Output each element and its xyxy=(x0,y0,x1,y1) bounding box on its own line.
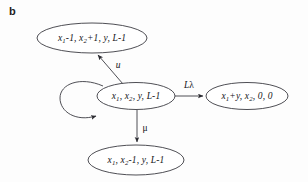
edge-center-to-top xyxy=(98,55,123,84)
diagram-canvas xyxy=(0,0,308,182)
state-node-top-ellipse xyxy=(37,23,147,53)
state-node-bottom-ellipse xyxy=(88,145,184,175)
figure-panel: b x1-1, x2+1, y, L-1 x1, x2, y xyxy=(0,0,308,182)
state-node-right-ellipse xyxy=(206,83,288,110)
edge-self-loop xyxy=(60,82,103,118)
state-node-center-ellipse xyxy=(97,83,175,110)
